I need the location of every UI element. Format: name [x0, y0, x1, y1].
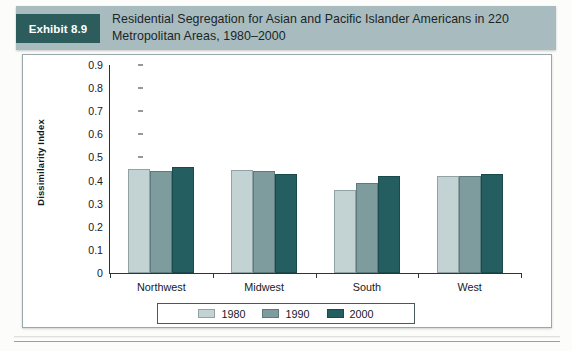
legend-swatch: [327, 309, 344, 318]
y-tick-label: 0.7: [57, 105, 103, 117]
bar-group: [334, 65, 400, 273]
x-tick-mark: [316, 273, 317, 278]
x-tick-mark: [110, 273, 111, 278]
bar-south-1990: [356, 183, 378, 273]
x-tick-mark: [418, 273, 419, 278]
chart-legend: 198019902000: [157, 303, 415, 324]
exhibit-title: Residential Segregation for Asian and Pa…: [112, 11, 550, 44]
y-axis-ticks: 0.90.80.70.60.50.40.30.20.10: [57, 61, 111, 285]
legend-swatch: [262, 309, 279, 318]
exhibit-figure: Exhibit 8.9 Residential Segregation for …: [0, 0, 572, 351]
legend-item-1990: 1990: [262, 308, 309, 320]
exhibit-header: Exhibit 8.9 Residential Segregation for …: [16, 6, 556, 50]
legend-label: 1980: [221, 308, 245, 320]
exhibit-badge-label: Exhibit 8.9: [29, 23, 88, 35]
bar-west-1980: [437, 176, 459, 273]
y-tick-label: 0.9: [57, 59, 103, 71]
y-tick-label: 0.3: [57, 198, 103, 210]
chart-panel: Dissimilarity Index 0.90.80.70.60.50.40.…: [22, 54, 552, 328]
legend-swatch: [198, 309, 215, 318]
x-tick-mark: [521, 273, 522, 278]
page-rule-shadow: [14, 336, 560, 338]
bar-south-2000: [378, 176, 400, 273]
legend-label: 2000: [350, 308, 374, 320]
bar-northwest-1980: [128, 169, 150, 273]
bar-northwest-1990: [150, 171, 172, 273]
bar-midwest-1980: [231, 170, 253, 273]
legend-label: 1990: [285, 308, 309, 320]
bar-south-1980: [334, 190, 356, 273]
y-tick-label: 0.2: [57, 221, 103, 233]
y-tick-label: 0.4: [57, 175, 103, 187]
y-tick-label: 0: [57, 267, 103, 279]
bar-group: [128, 65, 194, 273]
y-tick-label: 0.6: [57, 128, 103, 140]
y-tick-label: 0.8: [57, 82, 103, 94]
x-tick-mark: [213, 273, 214, 278]
legend-item-1980: 1980: [198, 308, 245, 320]
bar-northwest-2000: [172, 167, 194, 273]
bar-midwest-1990: [253, 171, 275, 273]
x-tick-label: West: [410, 281, 530, 293]
plot-area: [110, 65, 521, 273]
exhibit-badge: Exhibit 8.9: [16, 14, 100, 43]
bar-midwest-2000: [275, 174, 297, 273]
legend-item-2000: 2000: [327, 308, 374, 320]
bar-west-1990: [459, 176, 481, 273]
y-tick-label: 0.5: [57, 151, 103, 163]
bar-group: [231, 65, 297, 273]
y-tick-label: 0.1: [57, 244, 103, 256]
bar-group: [437, 65, 503, 273]
plot-wrapper: Dissimilarity Index 0.90.80.70.60.50.40.…: [23, 55, 551, 327]
bar-west-2000: [481, 174, 503, 273]
page-rule: [14, 341, 560, 342]
y-axis-label: Dissimilarity Index: [35, 88, 46, 238]
